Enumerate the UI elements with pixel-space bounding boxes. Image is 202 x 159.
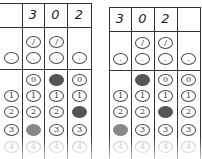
answer-grid-right: 3 0 2 / / . . . . 1 2 3 4 0 1 2 3 4 0 1 … xyxy=(0,0,202,159)
digit-bubble[interactable]: 1 xyxy=(135,90,150,102)
decimal-bubble[interactable]: . xyxy=(158,53,173,65)
digit-bubble[interactable]: 4 xyxy=(181,141,196,153)
col-divider xyxy=(177,7,178,159)
digit-bubble[interactable]: 3 xyxy=(158,124,173,136)
digit-bubble[interactable]: 0 xyxy=(158,74,173,86)
digit-bubble[interactable]: 0 xyxy=(181,74,196,86)
header-divider xyxy=(109,31,201,32)
fraction-bubble[interactable]: / xyxy=(158,37,173,49)
fraction-bubble[interactable]: / xyxy=(135,37,150,49)
digit-bubble[interactable]: 4 xyxy=(158,141,173,153)
digit-bubble[interactable]: 2 xyxy=(135,106,150,118)
header-cell: 2 xyxy=(154,8,177,30)
digit-bubble[interactable]: 4 xyxy=(113,141,128,153)
decimal-bubble[interactable]: . xyxy=(135,53,150,65)
decimal-bubble[interactable]: . xyxy=(181,53,196,65)
header-cell: 0 xyxy=(131,8,154,30)
symbol-row-divider xyxy=(109,70,201,71)
digit-bubble[interactable]: 1 xyxy=(158,90,173,102)
digit-bubble[interactable]: 2 xyxy=(113,106,128,118)
decimal-bubble[interactable]: . xyxy=(113,53,128,65)
digit-bubble[interactable]: 2 xyxy=(181,106,196,118)
digit-bubble[interactable]: 1 xyxy=(113,90,128,102)
digit-bubble-filled[interactable]: 2 xyxy=(158,106,173,118)
digit-bubble-filled[interactable]: 3 xyxy=(113,124,128,136)
digit-bubble-filled[interactable]: 0 xyxy=(135,74,150,86)
grid-border-right xyxy=(200,7,201,159)
digit-bubble[interactable]: 3 xyxy=(135,124,150,136)
digit-bubble[interactable]: 3 xyxy=(181,124,196,136)
digit-bubble[interactable]: 4 xyxy=(135,141,150,153)
digit-bubble[interactable]: 1 xyxy=(181,90,196,102)
header-cell: 3 xyxy=(109,8,131,30)
